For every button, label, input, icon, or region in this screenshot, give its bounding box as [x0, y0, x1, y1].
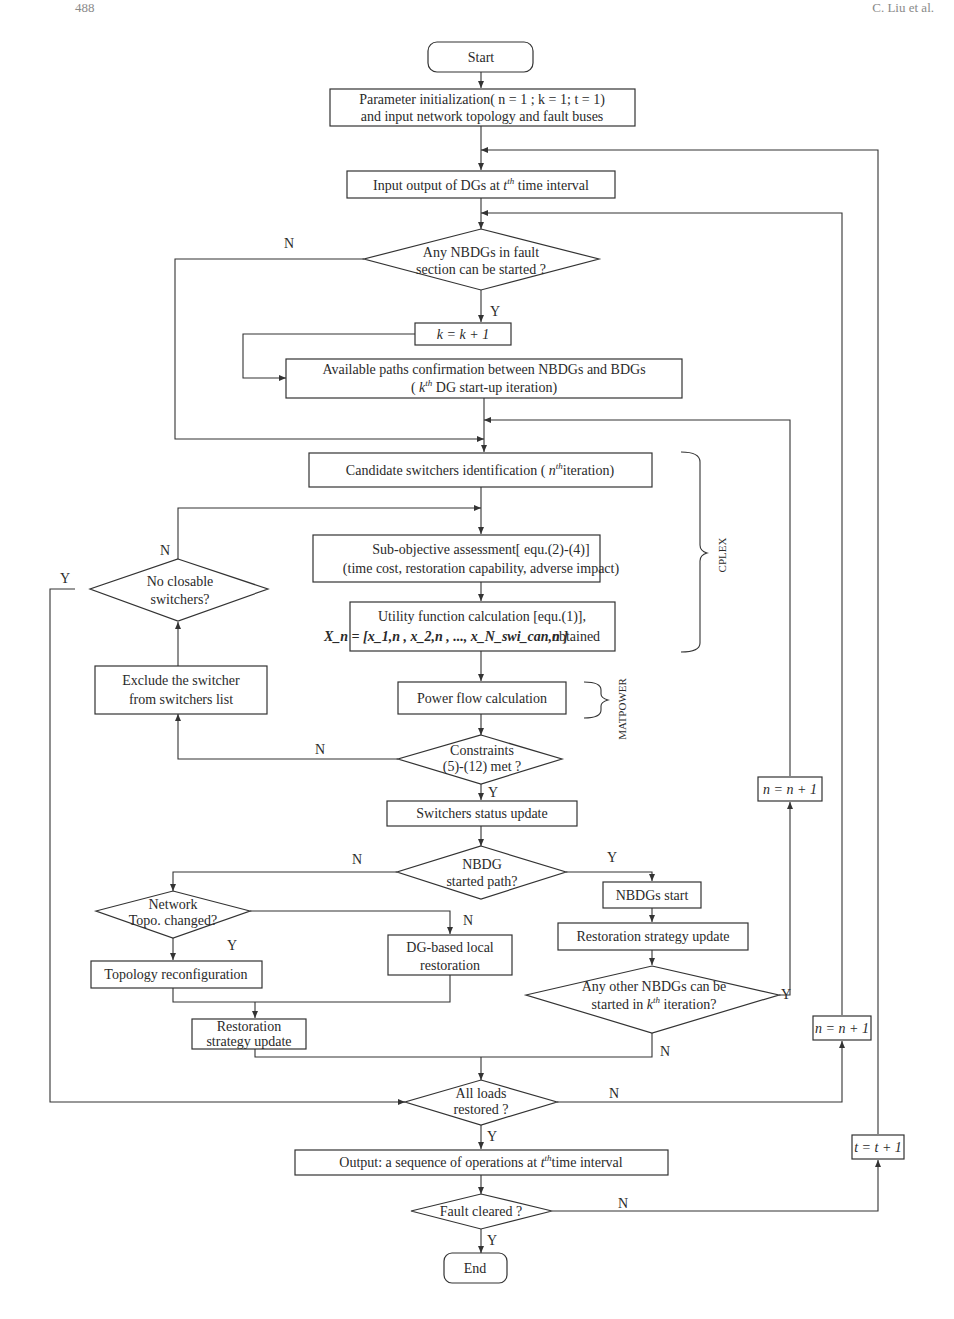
input-dg-post: time interval	[514, 178, 589, 193]
network-line2: Topo. changed?	[129, 913, 217, 928]
edge-network-no	[250, 911, 450, 934]
label-constraints-yes: Y	[488, 785, 498, 800]
fault-cleared-label: Fault cleared ?	[440, 1204, 522, 1219]
all-loads-decision: All loads restored ?	[405, 1080, 557, 1125]
t-increment-node: t = t + 1	[852, 1135, 904, 1159]
utility-node: Utility function calculation [equ.(1)], …	[323, 602, 615, 651]
fault-cleared-decision: Fault cleared ?	[411, 1194, 552, 1229]
no-closable-line1: No closable	[147, 574, 213, 589]
label-network-yes: Y	[227, 938, 237, 953]
label-nbdgfault-no: N	[284, 236, 294, 251]
network-line1: Network	[149, 897, 198, 912]
n-increment-node-b: n = n + 1	[813, 1016, 871, 1040]
output-node: Output: a sequence of operations at ttht…	[295, 1150, 668, 1175]
all-loads-line1: All loads	[456, 1086, 507, 1101]
cplex-brace	[681, 452, 707, 652]
edge-allloads-no	[557, 1041, 842, 1102]
edge-nbdgpath-no	[173, 872, 397, 891]
init-line2: and input network topology and fault bus…	[361, 109, 604, 124]
restor-left-line1: Restoration	[217, 1019, 282, 1034]
power-flow-label: Power flow calculation	[417, 691, 547, 706]
label-faultcleared-yes: Y	[487, 1233, 497, 1248]
other-nbdg-line1: Any other NBDGs can be	[582, 979, 727, 994]
label-constraints-no: N	[315, 742, 325, 757]
cplex-label: CPLEX	[716, 538, 728, 573]
label-network-no: N	[463, 913, 473, 928]
output-pre: Output: a sequence of operations at	[339, 1155, 540, 1170]
topology-reconfiguration-node: Topology reconfiguration	[91, 961, 262, 988]
label-noclosable-yes: Y	[60, 571, 70, 586]
label-nbdgpath-yes: Y	[607, 850, 617, 865]
label-nbdgpath-no: N	[352, 852, 362, 867]
k-increment-node: k = k + 1	[415, 323, 511, 345]
paths-line2-post: DG start-up iteration)	[432, 380, 557, 396]
label-othernbdg-yes: Y	[781, 987, 791, 1002]
exclude-line2: from switchers list	[129, 692, 233, 707]
restoration-update-left-node: Restoration strategy update	[192, 1019, 306, 1049]
restor-left-line2: strategy update	[206, 1034, 291, 1049]
restoration-update-right-node: Restoration strategy update	[558, 923, 748, 950]
output-label: Output: a sequence of operations at ttht…	[339, 1153, 623, 1170]
subobjective-node: Sub-objective assessment[ equ.(2)-(4)] (…	[313, 535, 619, 582]
edge-othernbdg-no	[481, 1033, 652, 1057]
other-nbdg-decision: Any other NBDGs can be started in kth it…	[526, 966, 779, 1033]
input-dg-pre: Input output of DGs at	[373, 178, 503, 193]
utility-line2-post: obtained	[552, 629, 600, 644]
nbdg-fault-line2: section can be started ?	[416, 262, 546, 277]
edge-restorleft-merge	[255, 1049, 481, 1057]
nbdgs-start-node: NBDGs start	[603, 882, 701, 908]
n-increment-b-label: n = n + 1	[815, 1021, 869, 1036]
power-flow-node: Power flow calculation	[398, 682, 566, 714]
other-nbdg-line2-pre: started in	[592, 997, 647, 1012]
restor-right-label: Restoration strategy update	[576, 929, 729, 944]
switch-status-label: Switchers status update	[416, 806, 547, 821]
label-faultcleared-no: N	[618, 1196, 628, 1211]
label-othernbdg-no: N	[660, 1044, 670, 1059]
t-increment-label: t = t + 1	[854, 1140, 902, 1155]
paths-node: Available paths confirmation between NBD…	[286, 359, 682, 398]
output-post: time interval	[552, 1155, 623, 1170]
restoration-flowchart: Start Parameter initialization( n = 1 ; …	[0, 0, 954, 1319]
nbdg-path-line1: NBDG	[462, 857, 502, 872]
edge-nbdgpath-yes	[566, 872, 652, 881]
end-node: End	[444, 1253, 507, 1283]
candidate-pre: Candidate switchers identification (	[346, 463, 549, 479]
candidate-post: iteration)	[563, 463, 615, 479]
matpower-label: MATPOWER	[616, 677, 628, 739]
other-nbdg-line2-post: iteration?	[660, 997, 716, 1012]
start-label: Start	[468, 50, 495, 65]
exclude-line1: Exclude the switcher	[122, 673, 240, 688]
all-loads-line2: restored ?	[454, 1102, 509, 1117]
nbdg-path-decision: NBDG started path?	[397, 846, 566, 899]
candidate-var: n	[549, 463, 556, 478]
exclude-node: Exclude the switcher from switchers list	[95, 666, 267, 714]
no-closable-decision: No closable switchers?	[90, 559, 268, 621]
dg-local-node: DG-based local restoration	[388, 935, 512, 975]
label-nbdgfault-yes: Y	[490, 304, 500, 319]
matpower-brace	[584, 682, 608, 718]
nbdg-fault-line1: Any NBDGs in fault	[423, 245, 539, 260]
no-closable-line2: switchers?	[150, 592, 209, 607]
paths-line1: Available paths confirmation between NBD…	[322, 362, 645, 377]
utility-line1: Utility function calculation [equ.(1)],	[378, 609, 586, 625]
label-allloads-no: N	[609, 1086, 619, 1101]
edge-constraints-no	[178, 714, 398, 759]
constraints-line2: (5)-(12) met ?	[443, 759, 522, 775]
edge-nbdgfault-no	[175, 259, 484, 439]
constraints-decision: Constraints (5)-(12) met ?	[398, 735, 562, 784]
network-decision: Network Topo. changed?	[96, 891, 250, 938]
constraints-line1: Constraints	[450, 743, 514, 758]
paths-line2: ( kth DG start-up iteration)	[411, 378, 558, 396]
subobj-line1: Sub-objective assessment[ equ.(2)-(4)]	[372, 542, 589, 558]
n-increment-a-label: n = n + 1	[763, 782, 817, 797]
edge-othernbdg-yes	[779, 802, 790, 995]
init-line1: Parameter initialization( n = 1 ; k = 1;…	[359, 92, 605, 108]
n-increment-node-a: n = n + 1	[758, 777, 822, 801]
matpower-bracket: MATPOWER	[584, 677, 628, 739]
utility-formula: X_n = [x_1,n , x_2,n , ..., x_N_swi_can,…	[323, 629, 568, 644]
input-dg-node: Input output of DGs at tth time interval	[347, 171, 615, 198]
label-allloads-yes: Y	[487, 1129, 497, 1144]
switch-status-node: Switchers status update	[387, 801, 577, 826]
nbdgs-start-label: NBDGs start	[616, 888, 689, 903]
k-increment-label: k = k + 1	[437, 327, 489, 342]
